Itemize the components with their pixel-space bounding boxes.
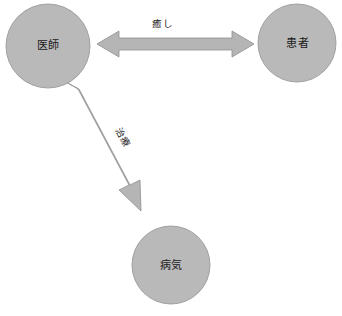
bottom-caption: [0, 310, 342, 316]
node-patient-label: 患者: [258, 38, 337, 49]
unidirectional-arrow-shape: [66, 82, 141, 211]
diagram-canvas: 医師 患者 病気 癒し 治療: [0, 0, 342, 316]
node-illness-label: 病気: [132, 260, 210, 271]
edge-healing-arrow[interactable]: [97, 31, 254, 57]
edge-treatment-arrow[interactable]: [66, 82, 141, 211]
node-doctor-label: 医師: [6, 40, 90, 51]
bidirectional-arrow-shape: [97, 31, 254, 57]
edge-healing-label: 癒し: [152, 19, 173, 29]
